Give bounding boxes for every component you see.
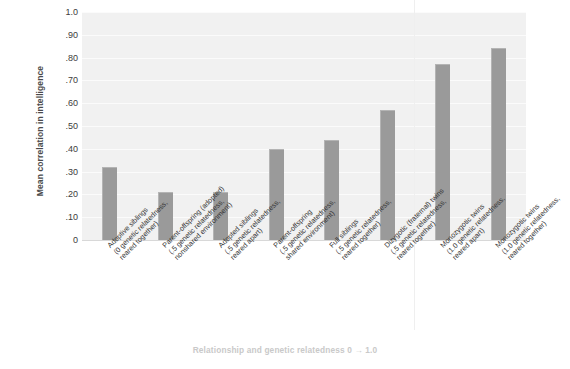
y-tick-label: .70 — [44, 75, 78, 85]
x-axis-tick-labels: Adoptive siblings(0 genetic relatedness,… — [82, 244, 526, 339]
y-tick-label: .80 — [44, 53, 78, 63]
y-axis-tick-labels: 1.0.90.80.70.60.50.40.30.20.100 — [44, 12, 78, 240]
y-tick-label: .40 — [44, 144, 78, 154]
y-tick-label: 0 — [44, 235, 78, 245]
y-tick-label: .50 — [44, 121, 78, 131]
bar-chart-figure: Mean correlation in intelligence 1.0.90.… — [0, 0, 570, 369]
y-tick-label: .90 — [44, 30, 78, 40]
y-tick-label: .10 — [44, 212, 78, 222]
bar — [102, 167, 117, 240]
y-tick-label: .60 — [44, 98, 78, 108]
y-tick-label: .30 — [44, 167, 78, 177]
y-tick-label: .20 — [44, 189, 78, 199]
x-axis-title: Relationship and genetic relatedness 0 →… — [0, 345, 570, 355]
y-tick-label: 1.0 — [44, 7, 78, 17]
